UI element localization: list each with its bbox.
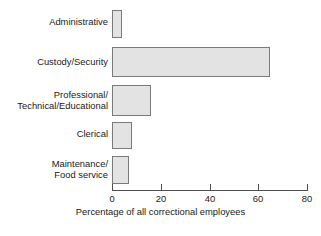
bar-category-label: Maintenance/ Food service	[0, 158, 112, 180]
x-axis-tick	[258, 184, 259, 191]
bar-row: Administrative	[0, 10, 321, 38]
bar-clerical	[112, 122, 132, 149]
x-axis-tick-label: 20	[146, 193, 176, 204]
bar-professional-technical-educational	[112, 85, 151, 116]
bar-maintenance-food-service	[112, 156, 129, 184]
x-axis-tick-label: 60	[243, 193, 273, 204]
bar-category-label: Administrative	[0, 16, 112, 27]
x-axis-tick-label: 80	[292, 193, 321, 204]
x-axis-title: Percentage of all correctional employees	[0, 206, 321, 218]
bar-category-label: Professional/ Technical/Educational	[0, 89, 112, 111]
bar-category-label: Clerical	[0, 128, 112, 139]
x-axis-tick-label: 0	[97, 193, 127, 204]
bar-category-label: Custody/Security	[0, 56, 112, 67]
x-axis-tick	[307, 184, 308, 191]
bar-administrative	[112, 10, 122, 38]
bar-row: Professional/ Technical/Educational	[0, 85, 321, 116]
bar-row: Clerical	[0, 122, 321, 149]
bar-row: Custody/Security	[0, 47, 321, 77]
x-axis-tick	[161, 184, 162, 191]
x-axis-tick-label: 40	[195, 193, 225, 204]
bar-chart: Administrative Custody/Security Professi…	[0, 0, 321, 236]
plot-area: Administrative Custody/Security Professi…	[0, 0, 321, 236]
x-axis-tick	[210, 184, 211, 191]
bar-row: Maintenance/ Food service	[0, 156, 321, 184]
bar-custody-security	[112, 47, 270, 77]
x-axis-tick	[112, 184, 113, 191]
